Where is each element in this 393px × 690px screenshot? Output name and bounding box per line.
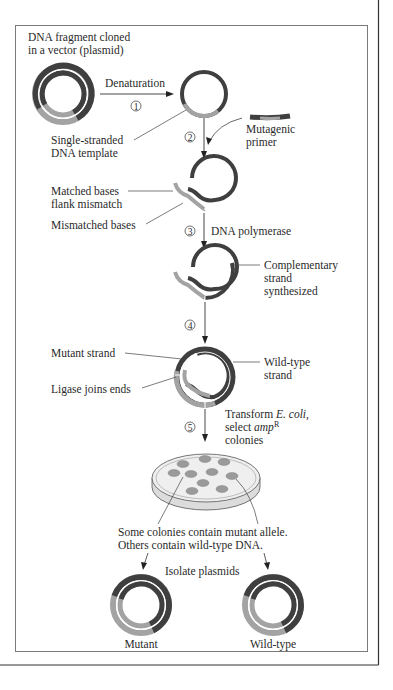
mismatched-bases-label: Mismatched bases bbox=[51, 219, 136, 231]
colonies-label-1: Some colonies contain mutant allele. bbox=[118, 526, 288, 538]
mutagenic-label-2: primer bbox=[246, 136, 277, 149]
ss-template-label-2: DNA template bbox=[51, 147, 118, 160]
svg-text:3: 3 bbox=[188, 227, 193, 237]
title-line-2: in a vector (plasmid) bbox=[28, 44, 124, 57]
ss-template-label-1: Single-stranded bbox=[51, 134, 123, 147]
ligase-label: Ligase joins ends bbox=[51, 383, 131, 396]
isolate-plasmids-label: Isolate plasmids bbox=[165, 565, 240, 578]
complementary-label-1: Complementary bbox=[264, 259, 338, 272]
complementary-label-3: synthesized bbox=[264, 285, 318, 298]
mutant-strand-label: Mutant strand bbox=[51, 347, 115, 359]
matched-bases-label-1: Matched bases bbox=[51, 185, 120, 197]
petri-dish-icon bbox=[152, 454, 260, 510]
result-wildtype-label: Wild-type bbox=[250, 638, 296, 651]
svg-text:4: 4 bbox=[188, 321, 193, 331]
step5-label-line1: Transform E. coli, bbox=[225, 408, 309, 421]
matched-bases-label-2: flank mismatch bbox=[51, 198, 122, 210]
wildtype-strand-label-2: strand bbox=[264, 369, 292, 381]
svg-text:1: 1 bbox=[134, 102, 139, 112]
result-mutant-label: Mutant bbox=[124, 638, 158, 650]
mutagenic-label-1: Mutagenic bbox=[246, 123, 295, 136]
complementary-label-2: strand bbox=[264, 272, 292, 284]
step1-label: Denaturation bbox=[105, 77, 165, 89]
site-directed-mutagenesis-diagram: DNA fragment cloned in a vector (plasmid… bbox=[0, 0, 393, 690]
step5-label-line2: select ampR bbox=[225, 420, 280, 434]
svg-text:5: 5 bbox=[188, 423, 193, 433]
title-line-1: DNA fragment cloned bbox=[28, 31, 130, 44]
step5-label-line3: colonies bbox=[225, 434, 264, 446]
step3-label: DNA polymerase bbox=[211, 225, 291, 238]
colonies-label-2: Others contain wild-type DNA. bbox=[118, 539, 263, 552]
wildtype-strand-label-1: Wild-type bbox=[264, 356, 310, 369]
mutagenic-primer-icon bbox=[250, 116, 290, 119]
svg-text:2: 2 bbox=[188, 133, 193, 143]
